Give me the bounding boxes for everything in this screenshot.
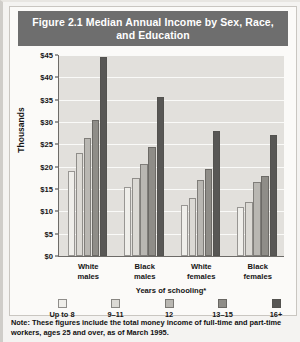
y-tick-label: $35 [40,95,53,104]
bar [100,57,107,256]
bar [132,178,139,256]
y-tick-label: $45 [40,51,53,60]
chart-legend: Up to 89–111213–1516+ [38,299,300,319]
x-category-label: Blackmales [124,262,165,281]
figure-container: Figure 2.1 Median Annual Income by Sex, … [0,0,300,342]
x-category-label: Whitefemales [181,262,222,281]
plot-area: $0$5$10$15$20$25$30$35$40$45 WhitemalesB… [58,55,284,257]
y-tick-label: $40 [40,73,53,82]
x-category-label: Blackfemales [237,262,278,281]
y-tick-label: $15 [40,184,53,193]
y-axis-title: Thousands [16,90,26,170]
y-tick-label: $0 [45,252,53,261]
figure-title-bar: Figure 2.1 Median Annual Income by Sex, … [18,11,288,46]
x-axis-title: Years of schooling* [58,286,284,295]
legend-swatch [111,299,120,308]
y-tick-label: $30 [40,117,53,126]
bar [124,187,131,256]
y-tick-label: $5 [45,229,53,238]
legend-swatch [272,299,281,308]
legend-item[interactable]: 12 [145,299,193,319]
bar [253,182,260,256]
chart-panel: Thousands $0$5$10$15$20$25$30$35$40$45 W… [18,50,288,315]
x-category-label: Whitemales [68,262,109,281]
bar-group: Whitefemales [181,55,222,256]
legend-item[interactable]: Up to 8 [38,299,86,319]
bar [140,164,147,256]
bar [148,147,155,256]
y-tick-mark [55,144,58,145]
y-tick-label: $20 [40,162,53,171]
bar [76,153,83,256]
y-tick-mark [55,211,58,212]
y-tick-mark [55,99,58,100]
y-tick-mark [55,121,58,122]
y-tick-mark [55,256,58,257]
plot-area-wrapper: $0$5$10$15$20$25$30$35$40$45 WhitemalesB… [58,55,284,257]
legend-swatch [218,299,227,308]
bar [181,205,188,256]
legend-swatch [58,299,67,308]
bar [245,202,252,256]
y-tick-mark [55,166,58,167]
legend-item[interactable]: 13–15 [199,299,247,319]
figure-note: Note: These figures include the total mo… [11,318,297,337]
y-tick-label: $10 [40,207,53,216]
bar [68,171,75,256]
bar-group: Blackfemales [237,55,278,256]
y-tick-mark [55,233,58,234]
bar [197,180,204,256]
y-tick-mark [55,77,58,78]
bar [205,169,212,256]
bar-group: Whitemales [68,55,109,256]
legend-item[interactable]: 9–11 [92,299,140,319]
bar [189,198,196,256]
bar [84,138,91,256]
y-tick-label: $25 [40,140,53,149]
y-tick-mark [55,188,58,189]
bar [270,135,277,256]
y-tick-mark [55,55,58,56]
legend-item[interactable]: 16+ [252,299,300,319]
page-title: Figure 2.1 Median Annual Income by Sex, … [28,16,278,41]
bar-group: Blackmales [124,55,165,256]
bar-series-container: WhitemalesBlackmalesWhitefemalesBlackfem… [59,55,284,256]
legend-swatch [165,299,174,308]
bar [157,97,164,256]
bar [237,207,244,256]
bar [92,120,99,256]
bar [213,131,220,256]
bar [261,176,268,256]
